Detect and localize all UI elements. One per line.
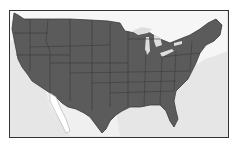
us-states-map[interactable] (10, 11, 227, 136)
map-frame (9, 10, 229, 138)
